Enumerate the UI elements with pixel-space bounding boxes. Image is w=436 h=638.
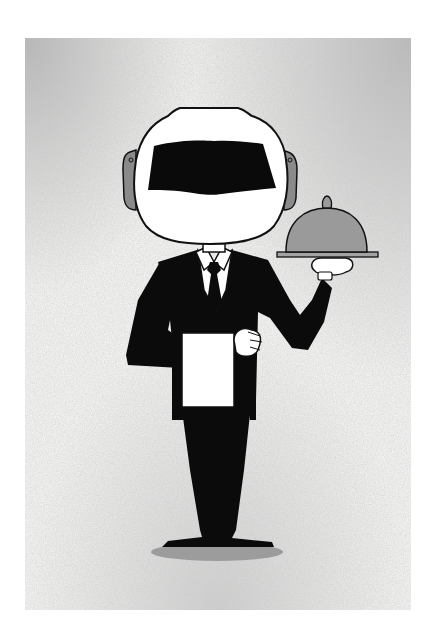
helmet-visor (148, 141, 276, 195)
grunge-background-panel: Illustration of a waiter with a white ro… (25, 38, 411, 610)
waiter-illustration (25, 38, 411, 610)
napkin-towel (182, 333, 234, 407)
